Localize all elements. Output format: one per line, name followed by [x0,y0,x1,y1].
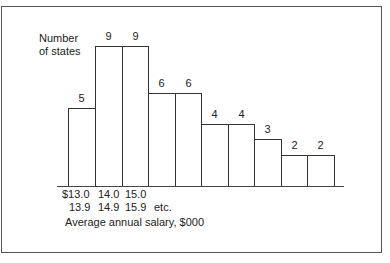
bar-value-label: 9 [122,30,149,42]
tick-label-1: $13.0 13.9 [62,188,90,214]
tick-1-top: $13.0 [62,188,90,201]
tick-3-bottom: 15.9 [125,201,146,214]
bar-value-label: 4 [201,108,228,120]
x-axis-label: Average annual salary, $000 [65,216,204,228]
tick-3-top: 15.0 [125,188,146,201]
bar-value-label: 5 [68,92,95,104]
histogram-bar [122,46,149,186]
histogram-bar [148,93,176,186]
y-axis-label: Number of states [39,32,81,58]
bar-value-label: 2 [307,139,334,151]
bar-value-label: 2 [281,139,308,151]
y-axis-label-line2: of states [39,45,81,58]
tick-2-top: 14.0 [98,188,119,201]
tick-2-bottom: 14.9 [98,201,119,214]
histogram-bar [175,93,202,186]
x-axis-baseline [57,186,344,187]
histogram-bar [281,155,308,186]
bar-value-label: 9 [95,30,122,42]
y-axis-label-line1: Number [39,32,81,45]
histogram-bar [201,124,229,186]
histogram-bar [307,155,335,186]
bar-value-label: 6 [148,77,175,89]
bar-value-label: 6 [175,77,202,89]
tick-1-bottom: 13.9 [62,201,90,214]
tick-label-3: 15.0 15.9 [125,188,146,214]
histogram-bar [228,124,255,186]
histogram-bar [254,139,282,186]
tick-etc: etc. [154,201,172,214]
bar-value-label: 3 [254,123,281,135]
histogram-bar [95,46,123,186]
histogram-bar [68,108,96,186]
bar-value-label: 4 [228,108,255,120]
tick-label-2: 14.0 14.9 [98,188,119,214]
